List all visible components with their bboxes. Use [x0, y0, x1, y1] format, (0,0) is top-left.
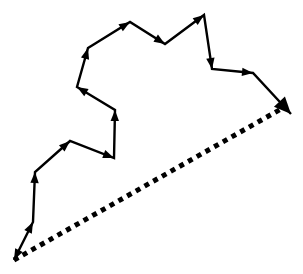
diagram-background	[0, 0, 303, 274]
vector-path-diagram: Vector displacement path diagram A close…	[0, 0, 303, 274]
